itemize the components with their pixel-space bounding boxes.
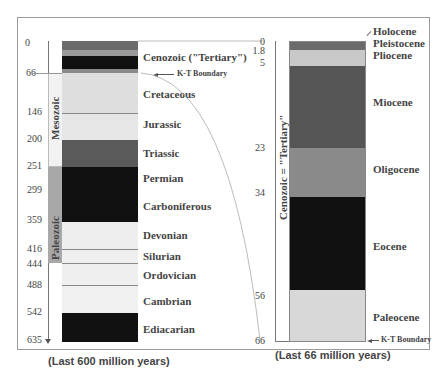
epoch-label: Pliocene	[373, 49, 412, 61]
kt-arrow-line	[372, 340, 379, 341]
epoch-paleocene	[290, 290, 365, 341]
epoch-pliocene	[290, 50, 365, 66]
right-tick: 66	[245, 335, 265, 346]
epoch-holocene-pleistocene	[290, 42, 365, 50]
epoch-eocene	[290, 197, 365, 290]
right-tick: 56	[245, 290, 265, 301]
epoch-label: Pleistocene	[373, 37, 425, 49]
epoch-label: Eocene	[373, 240, 407, 252]
right-tick: 5	[245, 57, 265, 68]
right-tick: 1.8	[245, 45, 265, 56]
right-tick: 34	[245, 187, 265, 198]
epoch-label: Paleocene	[373, 311, 419, 323]
epoch-miocene	[290, 66, 365, 148]
epoch-label: Miocene	[373, 96, 413, 108]
epoch-oligocene	[290, 148, 365, 197]
right-caption: (Last 66 million years)	[275, 349, 391, 361]
cenozoic-vertical-label: Cenozoic = "Tertiary"	[277, 115, 289, 220]
kt-boundary-label: K-T Boundary	[381, 335, 431, 344]
right-base	[275, 341, 289, 342]
right-tick: 23	[245, 142, 265, 153]
epoch-bar	[289, 41, 366, 342]
epoch-label: Oligocene	[373, 163, 419, 175]
epoch-label: Holocene	[373, 25, 416, 37]
